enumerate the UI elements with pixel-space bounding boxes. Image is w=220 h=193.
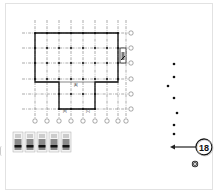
grid-bubble-bottom [93,119,97,123]
column-dot [117,32,119,34]
column-dot [34,78,36,80]
grid-bubble-bottom [69,119,73,123]
legend-swatch [13,132,23,152]
column-dot [82,32,84,34]
room-tag-b: [B] [63,109,67,113]
column-dot [70,78,72,80]
column-dot [117,47,119,49]
column-dot [94,93,96,95]
grid-bubble-bottom [33,119,37,123]
grid-bubble-bottom [57,119,61,123]
column-dot [58,108,60,110]
column-dot [46,62,48,64]
column-dot [117,78,119,80]
grid-bubble-right [129,92,133,96]
structural-columns [34,32,119,110]
room-tag-c: [C] [86,109,90,113]
marker-dot [173,133,176,136]
grid-bubble-right [129,61,133,65]
column-dot [34,47,36,49]
column-dot [46,32,48,34]
column-dot [106,62,108,64]
marker-dot [173,76,176,79]
column-dot [117,62,119,64]
column-dot [82,108,84,110]
column-dot [82,78,84,80]
marker-dot [176,112,179,115]
legend-swatch [61,132,71,152]
legend-swatches [13,132,71,152]
column-dot [94,62,96,64]
column-dot [70,108,72,110]
column-dot [106,47,108,49]
column-dot [58,47,60,49]
column-dot [94,47,96,49]
grid-bubble-bottom [116,119,120,123]
grid-bubble-right [129,107,133,111]
marker-dot [173,97,176,100]
legend-swatch [25,132,35,152]
grid-bubble-bottom [45,119,49,123]
floor-plan-canvas: [A] [B] [C] 18 [0,0,220,193]
marker-dots [167,63,179,136]
stair-core [120,48,126,63]
column-dot [58,62,60,64]
column-dot [70,32,72,34]
column-dot [70,93,72,95]
building-outline [35,33,118,109]
north-arrow-icon [192,161,198,167]
column-dot [46,78,48,80]
structural-grid [22,20,128,118]
column-dot [46,47,48,49]
column-dot [106,32,108,34]
grid-bubble-right [129,46,133,50]
column-dot [82,93,84,95]
arrow-head-icon [170,145,175,150]
column-dot [58,32,60,34]
marker-dot [167,85,170,88]
column-dot [34,62,36,64]
grid-bubble-bottom [124,119,128,123]
grid-bubble-right [129,31,133,35]
column-dot [82,62,84,64]
grid-bubble-bottom [105,119,109,123]
room-tag-a: [A] [74,83,78,87]
marker-dot [173,63,176,66]
column-dot [70,47,72,49]
grid-bubble-right [129,77,133,81]
grid-bubble-bottom [81,119,85,123]
column-dot [94,108,96,110]
callout-arrow[interactable]: 18 [170,139,213,156]
column-dot [34,32,36,34]
callout-number: 18 [199,143,209,153]
column-dot [82,47,84,49]
column-dot [106,78,108,80]
legend-swatch [49,132,59,152]
column-dot [94,32,96,34]
column-dot [70,62,72,64]
column-dot [58,78,60,80]
legend-swatch [37,132,47,152]
marker-dot [173,124,176,127]
column-dot [58,93,60,95]
column-dot [94,78,96,80]
